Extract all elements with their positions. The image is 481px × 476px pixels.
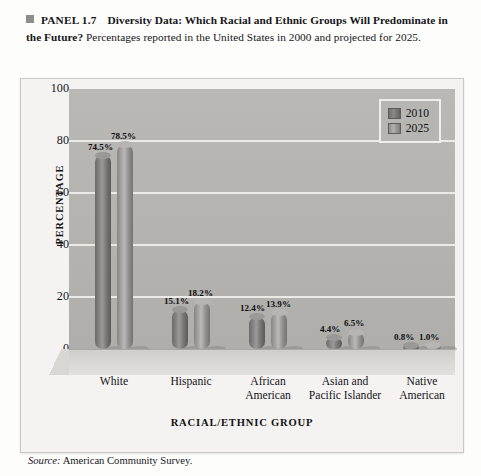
- chart-floor: [69, 349, 455, 375]
- bar-group-hispanic: 15.1% 18.2%: [164, 89, 226, 349]
- panel-caption: PANEL 1.7Diversity Data: Which Racial an…: [26, 12, 458, 45]
- bar-hispanic-2010[interactable]: [172, 310, 188, 349]
- bar-asian-pacific-2010[interactable]: [326, 338, 342, 349]
- legend-label-2025: 2025: [406, 122, 429, 135]
- bar-asian-pacific-2025[interactable]: [348, 332, 364, 349]
- category-line: American: [379, 389, 465, 403]
- bar-white-2025[interactable]: [117, 145, 133, 349]
- y-tick-40: 40: [41, 237, 69, 252]
- category-label-hispanic: Hispanic: [148, 375, 234, 389]
- bar-group-asian-pacific-islander: 4.4% 6.5%: [318, 89, 380, 349]
- chart-legend: 2010 2025: [379, 99, 441, 143]
- category-line: White: [71, 375, 157, 389]
- category-line: Hispanic: [148, 375, 234, 389]
- y-tick-80: 80: [41, 133, 69, 148]
- bar-group-african-american: 12.4% 13.9%: [241, 89, 303, 349]
- value-label-white-2010: 74.5%: [88, 142, 113, 152]
- panel-subtext: Percentages reported in the United State…: [83, 31, 421, 43]
- legend-item-2010[interactable]: 2010: [388, 106, 429, 121]
- bar-white-2010[interactable]: [95, 155, 111, 349]
- x-axis-title: RACIAL/ETHNIC GROUP: [21, 417, 463, 428]
- y-tick-60: 60: [41, 185, 69, 200]
- source-note: Source: American Community Survey.: [28, 455, 192, 466]
- legend-swatch-2025-icon: [388, 123, 401, 134]
- category-line: African: [225, 375, 311, 389]
- panel-bullet-icon: [26, 15, 34, 23]
- category-line: Pacific Islander: [302, 389, 388, 403]
- source-prefix: Source:: [28, 455, 61, 466]
- value-label-native-american-2025: 1.0%: [419, 332, 439, 342]
- category-line: American: [225, 389, 311, 403]
- category-label-native-american: Native American: [379, 375, 465, 403]
- panel-number: PANEL 1.7: [41, 14, 97, 26]
- plot-area: 74.5% 78.5% 15.1% 18.2% 12.4% 13.9%: [69, 89, 455, 349]
- value-label-native-american-2010: 0.8%: [394, 332, 414, 342]
- category-line: Native: [379, 375, 465, 389]
- category-label-white: White: [71, 375, 157, 389]
- y-axis-ticks: 100 80 60 40 20 0: [29, 79, 69, 452]
- chart-floor-left-wedge: [45, 349, 69, 375]
- value-label-hispanic-2010: 15.1%: [164, 296, 189, 306]
- y-tick-100: 100: [41, 81, 69, 96]
- category-label-asian-pacific-islander: Asian and Pacific Islander: [302, 375, 388, 403]
- value-label-asian-pacific-2025: 6.5%: [344, 318, 364, 328]
- panel-figure-page: PANEL 1.7Diversity Data: Which Racial an…: [0, 0, 481, 476]
- value-label-african-american-2010: 12.4%: [240, 303, 265, 313]
- category-line: Asian and: [302, 375, 388, 389]
- source-text: American Community Survey.: [61, 455, 193, 466]
- value-label-hispanic-2025: 18.2%: [188, 288, 213, 298]
- bar-group-white: 74.5% 78.5%: [87, 89, 149, 349]
- bar-hispanic-2025[interactable]: [194, 302, 210, 349]
- legend-label-2010: 2010: [406, 107, 429, 120]
- value-label-asian-pacific-2010: 4.4%: [320, 324, 340, 334]
- legend-swatch-2010-icon: [388, 108, 401, 119]
- chart-figure: PERCENTAGE 100 80 60 40 20 0 74.5% 78.5%: [20, 78, 464, 453]
- value-label-white-2025: 78.5%: [111, 131, 136, 141]
- bar-african-american-2010[interactable]: [249, 317, 265, 349]
- y-tick-20: 20: [41, 289, 69, 304]
- legend-item-2025[interactable]: 2025: [388, 121, 429, 136]
- category-label-african-american: African American: [225, 375, 311, 403]
- x-axis-category-labels: White Hispanic African American Asian an…: [69, 375, 455, 415]
- value-label-african-american-2025: 13.9%: [266, 299, 291, 309]
- bar-african-american-2025[interactable]: [271, 313, 287, 349]
